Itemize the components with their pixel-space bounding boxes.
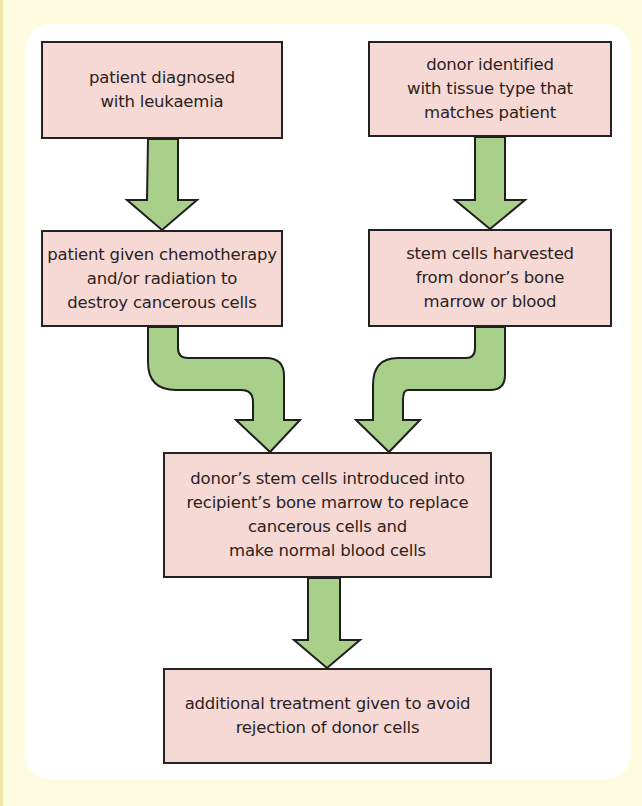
node-label: patient diagnosed with leukaemia [89, 66, 235, 114]
arrow-down-icon [455, 137, 525, 229]
node-label: stem cells harvested from donor’s bone m… [406, 242, 574, 314]
curved-arrow-right-icon [148, 327, 300, 452]
node-stem-cells-harvested: stem cells harvested from donor’s bone m… [368, 229, 612, 327]
arrow-down-icon [127, 139, 197, 230]
curved-arrow-left-icon [356, 327, 505, 452]
arrow-down-icon [294, 578, 360, 668]
node-label: additional treatment given to avoid reje… [185, 692, 471, 740]
node-patient-diagnosed: patient diagnosed with leukaemia [41, 41, 283, 139]
node-label: donor’s stem cells introduced into recip… [187, 467, 469, 563]
node-label: donor identified with tissue type that m… [407, 53, 573, 125]
node-donor-identified: donor identified with tissue type that m… [368, 41, 612, 137]
node-additional-treatment: additional treatment given to avoid reje… [163, 668, 492, 764]
node-label: patient given chemotherapy and/or radiat… [47, 243, 277, 315]
node-chemotherapy: patient given chemotherapy and/or radiat… [41, 230, 283, 327]
node-stem-cells-introduced: donor’s stem cells introduced into recip… [163, 452, 492, 578]
